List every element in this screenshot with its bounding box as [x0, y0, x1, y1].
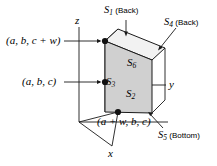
side-label-s4-paren: (Back) [175, 18, 198, 27]
box-edge-bottom-right [152, 100, 165, 113]
leader-line-s5 [150, 114, 163, 128]
coord-label-top-left: (a, b, c + w) [6, 35, 60, 46]
coord-label-mid-left: (a, b, c) [22, 76, 56, 87]
face-label-s6-sub: 6 [133, 61, 137, 70]
side-label-s4-sub: 4 [169, 20, 173, 29]
face-label-s2: S2 [126, 88, 135, 100]
side-label-s4: S4 (Back) [164, 17, 198, 28]
box-diagram-figure: (a, b, c + w) (a, b, c) (a + w, b, c) S6… [0, 0, 217, 166]
leader-arrowhead-top-left-coord [97, 39, 102, 43]
leader-arrowhead-mid-left-coord [97, 80, 102, 84]
side-label-s5-sub: 5 [163, 133, 167, 142]
axis-label-z: z [75, 15, 79, 26]
side-label-s1-paren: (Back) [115, 6, 138, 15]
coord-label-bottom: (a + w, b, c) [97, 116, 151, 127]
side-label-s1-sub: 1 [109, 8, 113, 17]
face-label-s2-sub: 2 [132, 92, 136, 101]
side-label-s5: S5 (Bottom) [158, 130, 200, 141]
axis-label-x: x [108, 148, 113, 159]
face-label-s6: S6 [127, 57, 136, 69]
side-label-s5-paren: (Bottom) [169, 131, 200, 140]
leader-line-s4 [160, 28, 176, 48]
face-label-s3: S3 [106, 76, 115, 88]
face-label-s3-sub: 3 [112, 80, 116, 89]
vertex-dot-top-left [102, 38, 108, 44]
side-label-s1: S1 (Back) [104, 5, 138, 16]
axis-label-y: y [169, 79, 174, 90]
